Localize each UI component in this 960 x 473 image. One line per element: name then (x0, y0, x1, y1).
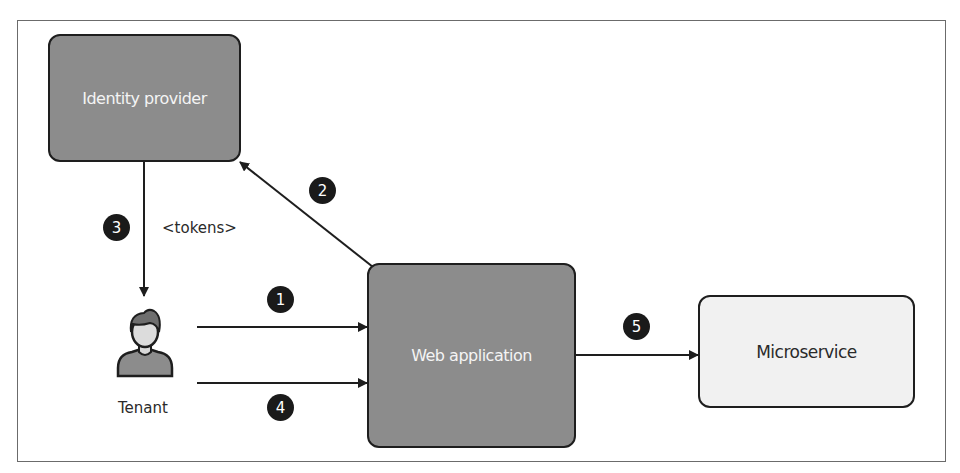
microservice-label: Microservice (756, 342, 857, 362)
tenant-node (112, 306, 178, 384)
web-application-label: Web application (411, 346, 532, 365)
user-icon (112, 306, 178, 384)
step-badge-1: 1 (267, 286, 294, 313)
arrow-step-2 (240, 162, 373, 267)
tenant-label: Tenant (118, 399, 168, 417)
identity-provider-label: Identity provider (82, 89, 207, 108)
step-badge-5: 5 (623, 313, 650, 340)
microservice-node: Microservice (698, 295, 915, 408)
tokens-label: <tokens> (162, 219, 237, 237)
step-badge-2: 2 (309, 177, 336, 204)
step-badge-3: 3 (103, 214, 130, 241)
identity-provider-node: Identity provider (48, 34, 241, 162)
web-application-node: Web application (367, 263, 576, 448)
step-badge-4: 4 (267, 394, 294, 421)
